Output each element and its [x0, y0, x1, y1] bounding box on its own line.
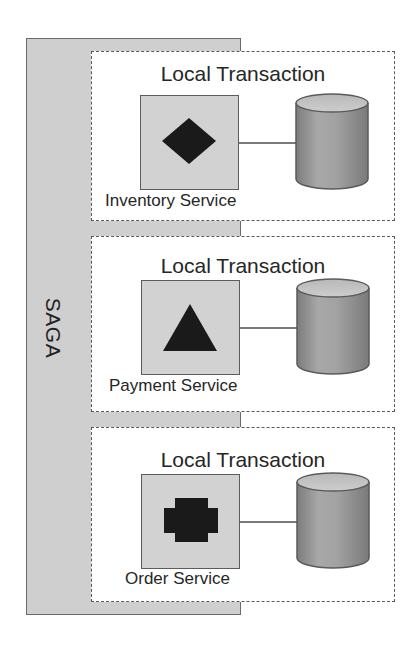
order-service-box — [141, 474, 240, 569]
inventory-service-box — [140, 95, 239, 190]
database-icon — [295, 278, 371, 376]
triangle-icon — [142, 281, 241, 376]
local-transaction-title: Local Transaction — [92, 448, 394, 472]
connector-line — [239, 142, 296, 144]
saga-label: SAGA — [41, 298, 65, 358]
diamond-icon — [141, 96, 240, 191]
payment-service-box — [141, 280, 240, 375]
connector-line — [240, 327, 297, 329]
connector-line — [240, 521, 297, 523]
payment-service-label: Payment Service — [109, 376, 238, 396]
local-transaction-title: Local Transaction — [92, 254, 394, 278]
local-transaction-title: Local Transaction — [92, 62, 394, 86]
cross-icon — [142, 475, 241, 570]
database-icon — [295, 472, 371, 570]
order-service-label: Order Service — [125, 569, 230, 589]
database-icon — [294, 93, 370, 191]
inventory-service-label: Inventory Service — [105, 191, 236, 211]
